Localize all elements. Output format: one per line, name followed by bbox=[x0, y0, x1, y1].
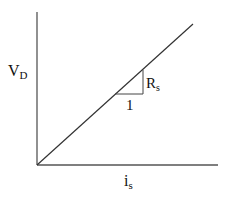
slope-rise-label-main: R bbox=[146, 75, 156, 91]
y-axis-label: VD bbox=[8, 62, 28, 81]
slope-rise-label-sub: s bbox=[156, 82, 160, 93]
y-axis-label-main: V bbox=[8, 62, 20, 79]
vd-vs-is-diagram: VD is Rs 1 bbox=[0, 0, 226, 198]
slope-run-label: 1 bbox=[126, 97, 134, 113]
x-axis-label: is bbox=[124, 172, 133, 191]
y-axis-label-sub: D bbox=[20, 69, 28, 81]
slope-rise-label: Rs bbox=[146, 75, 160, 93]
x-axis-label-sub: s bbox=[128, 179, 132, 191]
